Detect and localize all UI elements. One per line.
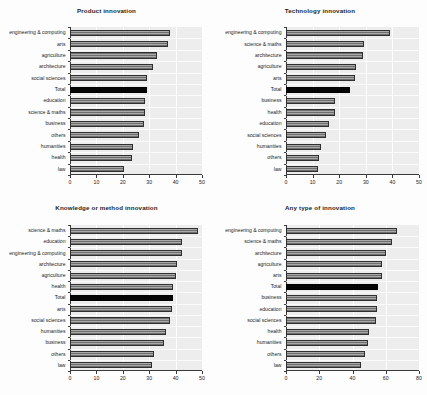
y-axis-tick	[284, 315, 286, 316]
y-axis-tick-label: law	[213, 164, 284, 175]
y-axis-tick-label: social sciences	[0, 73, 68, 84]
y-axis-tick-label: science & maths	[213, 236, 284, 247]
y-axis-tick	[284, 61, 286, 62]
bar	[286, 121, 329, 127]
bar-row	[286, 95, 419, 106]
bar	[70, 166, 124, 172]
bar	[70, 64, 153, 70]
bar	[286, 261, 382, 267]
y-axis-tick	[284, 326, 286, 327]
x-axis-tick-label: 40	[173, 375, 179, 381]
bar	[70, 273, 176, 279]
bar	[286, 351, 365, 357]
x-axis-tick-label: 80	[416, 375, 422, 381]
y-axis-tick-label: agriculture	[0, 50, 68, 61]
y-axis-tick-label: humanities	[213, 141, 284, 152]
figure-canvas: Product innovation engineering & computi…	[0, 0, 427, 395]
y-axis-tick-label: law	[213, 360, 284, 371]
y-axis-tick	[68, 73, 70, 74]
x-axis-tick-label: 50	[199, 375, 205, 381]
plot-area	[70, 27, 202, 175]
chart-title: Knowledge or method innovation	[0, 204, 213, 211]
x-axis-tick-label: 0	[69, 375, 72, 381]
y-axis-tick-label: science & maths	[0, 107, 68, 118]
x-axis-tick	[353, 371, 354, 374]
bar	[70, 30, 170, 36]
bar-row	[286, 141, 419, 152]
y-axis-tick-label: humanities	[213, 337, 284, 348]
x-axis: 01020304050	[70, 370, 202, 371]
bar	[286, 155, 319, 161]
plot-area	[70, 225, 202, 371]
bar-row	[70, 236, 202, 247]
x-axis-tick	[286, 371, 287, 374]
x-axis-tick-label: 20	[120, 375, 126, 381]
x-axis-tick-label: 10	[310, 179, 316, 185]
y-axis-tick-label: engineering & computing	[0, 247, 68, 258]
bar-row	[70, 270, 202, 281]
gridline	[202, 27, 203, 175]
x-axis-tick	[70, 175, 71, 178]
y-axis-tick	[284, 107, 286, 108]
y-axis-tick	[68, 326, 70, 327]
bar	[70, 132, 139, 138]
gridline	[419, 27, 420, 175]
x-axis-tick-label: 20	[336, 179, 342, 185]
y-axis-tick	[284, 118, 286, 119]
bar	[286, 132, 326, 138]
bar-row	[286, 152, 419, 163]
y-axis-tick	[68, 349, 70, 350]
y-axis-tick-label: law	[0, 360, 68, 371]
y-axis-tick-label: arts	[213, 270, 284, 281]
y-axis-tick	[284, 259, 286, 260]
bar-row	[70, 349, 202, 360]
bar-series	[70, 27, 202, 175]
bar-row	[286, 50, 419, 61]
y-axis-tick	[68, 225, 70, 226]
bar-series	[70, 225, 202, 371]
y-axis-tick	[284, 50, 286, 51]
y-axis-tick-label: business	[213, 95, 284, 106]
y-axis-tick	[284, 292, 286, 293]
y-axis-tick	[284, 236, 286, 237]
y-axis-tick-label: others	[0, 349, 68, 360]
y-axis-tick	[284, 360, 286, 361]
bar	[286, 41, 364, 47]
y-axis-tick	[68, 259, 70, 260]
plot-area	[286, 225, 419, 371]
bar	[70, 144, 133, 150]
bar-row	[70, 95, 202, 106]
bar-row	[286, 304, 419, 315]
y-axis-tick-label: engineering & computing	[213, 225, 284, 236]
x-axis-tick	[96, 175, 97, 178]
bar-row	[70, 27, 202, 38]
bar-row	[286, 281, 419, 292]
y-axis-tick	[284, 247, 286, 248]
bar	[70, 75, 147, 81]
y-axis-tick-label: education	[213, 304, 284, 315]
bar	[70, 329, 166, 335]
chart-title: Product innovation	[0, 7, 213, 14]
x-axis-tick	[286, 175, 287, 178]
bar	[70, 284, 173, 290]
bar-row	[286, 61, 419, 72]
chart-panel-product-innovation: Product innovation engineering & computi…	[0, 0, 213, 197]
x-axis-tick	[366, 175, 367, 178]
x-axis-tick-label: 40	[350, 375, 356, 381]
bar-row	[70, 247, 202, 258]
x-axis-tick-label: 30	[146, 179, 152, 185]
x-axis-tick-label: 0	[285, 375, 288, 381]
y-axis-tick	[284, 141, 286, 142]
gridline	[202, 225, 203, 371]
bar	[286, 144, 321, 150]
bar	[286, 362, 361, 368]
x-axis-tick	[96, 371, 97, 374]
x-axis-tick-label: 20	[120, 179, 126, 185]
x-axis-tick-label: 20	[316, 375, 322, 381]
y-axis-tick-label: education	[0, 95, 68, 106]
bar-row	[70, 315, 202, 326]
x-axis-tick	[313, 175, 314, 178]
y-axis-category-labels: science & mathseducationengineering & co…	[0, 225, 68, 371]
bar-row	[70, 259, 202, 270]
bar-row	[286, 118, 419, 129]
